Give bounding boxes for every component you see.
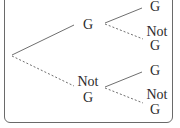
- node-not-g-line1: Not: [73, 75, 103, 89]
- branch-not-g-to-g: [105, 72, 142, 87]
- node-g: G: [73, 18, 103, 32]
- node-g-not-g-line1: Not: [142, 25, 172, 39]
- node-not-g-line2: G: [73, 91, 103, 105]
- branch-g-to-g: [105, 8, 142, 23]
- node-not-g-not-g-line2: G: [140, 103, 170, 117]
- branch-root-to-g: [12, 25, 74, 55]
- branch-not-g-to-not-g: [105, 88, 143, 103]
- node-not-g-not-g-line1: Not: [142, 88, 172, 102]
- branch-g-to-not-g: [105, 24, 143, 39]
- branch-root-to-not-g: [12, 56, 74, 86]
- node-g-g: G: [140, 0, 170, 14]
- node-g-not-g-line2: G: [140, 39, 170, 53]
- node-not-g-g: G: [140, 64, 170, 78]
